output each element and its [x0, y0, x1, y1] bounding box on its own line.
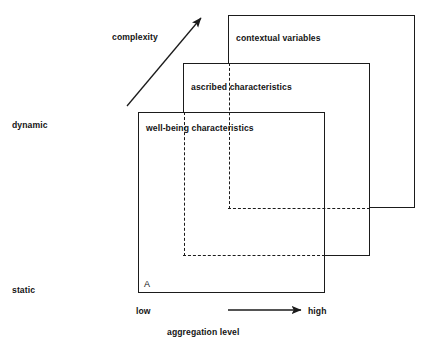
axis-label-low: low: [136, 306, 151, 316]
point-marker-a: A: [144, 279, 150, 289]
label-ascribed-characteristics: ascribed characteristics: [191, 82, 292, 92]
page-number: 14: [4, 0, 13, 1]
hidden-edge-ascribed-left: [184, 112, 185, 256]
hidden-edge-contextual-bottom: [228, 208, 370, 209]
box-wellbeing-characteristics: [138, 112, 325, 293]
axis-label-dynamic: dynamic: [12, 120, 48, 130]
axis-label-high: high: [308, 306, 327, 316]
label-contextual-variables: contextual variables: [236, 33, 321, 43]
label-wellbeing-characteristics: well-being characteristics: [146, 123, 254, 133]
hidden-edge-ascribed-bottom: [183, 255, 325, 256]
axis-caption-aggregation-level: aggregation level: [167, 327, 239, 337]
axis-label-static: static: [12, 285, 35, 295]
diagram-canvas: 14 social architecture contextual variab…: [0, 0, 424, 348]
label-complexity: complexity: [112, 32, 158, 42]
